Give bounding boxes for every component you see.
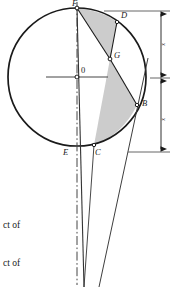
point-label-B: B [142,99,147,108]
point-marker-D [115,20,118,23]
point-label-C: C [95,148,101,157]
center-label-O: 0 [81,66,85,75]
dimension-label-lower: x [160,118,167,121]
point-label-F: F [72,0,77,8]
point-marker-B [135,103,138,106]
auxiliary-line-C-down [84,145,94,287]
dimension-label-upper: x [160,43,167,46]
caption-line-1: ct of [3,219,20,232]
geometry-figure: F D G B C E 0 x x ct of ct of [0,0,176,287]
caption-block: ct of ct of [3,193,20,287]
secant-line-F-C [77,8,84,287]
point-marker-G [108,57,112,61]
geometry-canvas [0,0,176,287]
point-label-D: D [121,11,127,20]
caption-line-2: ct of [3,257,20,270]
point-label-E: E [63,148,68,157]
shaded-region-lower [94,59,137,145]
point-label-G: G [114,51,120,60]
